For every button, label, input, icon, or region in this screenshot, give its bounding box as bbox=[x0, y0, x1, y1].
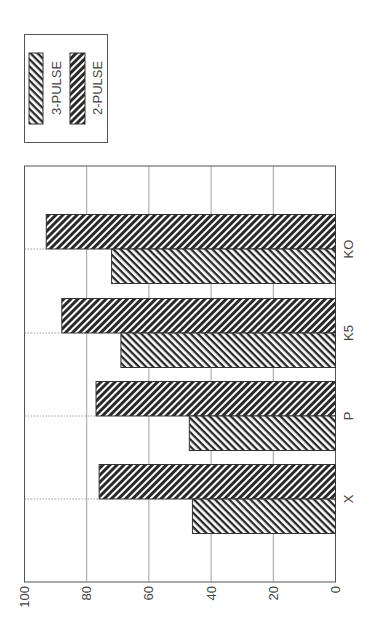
bar-3-pulse-x bbox=[192, 499, 335, 534]
value-tick-label: 80 bbox=[79, 586, 94, 600]
legend-label-2-pulse: 2-PULSE bbox=[90, 61, 105, 116]
value-tick-label: 0 bbox=[328, 586, 343, 593]
bar-2-pulse-k5 bbox=[62, 299, 336, 334]
category-label: P bbox=[341, 412, 356, 421]
bar-2-pulse-p bbox=[96, 382, 335, 417]
bar-2-pulse-x bbox=[99, 465, 335, 500]
value-axis-labels: 020406080100 bbox=[17, 586, 343, 608]
value-tick-label: 100 bbox=[17, 586, 32, 608]
bar-3-pulse-ko bbox=[112, 249, 336, 284]
bar-3-pulse-p bbox=[189, 416, 335, 451]
legend-swatch-2-pulse bbox=[70, 53, 85, 124]
bar-chart: 3-PULSE 2-PULSE 020406080100 XPK5KO bbox=[0, 0, 374, 638]
category-axis-labels: XPK5KO bbox=[341, 240, 356, 504]
bar-3-pulse-k5 bbox=[121, 333, 336, 368]
legend-swatch-3-pulse bbox=[29, 53, 43, 124]
bar-2-pulse-ko bbox=[46, 215, 335, 250]
legend: 3-PULSE 2-PULSE bbox=[25, 35, 108, 143]
value-tick-label: 40 bbox=[204, 586, 219, 600]
category-label: KO bbox=[341, 240, 356, 259]
legend-label-3-pulse: 3-PULSE bbox=[49, 61, 64, 116]
category-label: K5 bbox=[341, 325, 356, 341]
category-label: X bbox=[341, 494, 356, 503]
plot-area bbox=[25, 166, 336, 582]
value-tick-label: 60 bbox=[141, 586, 156, 600]
value-tick-label: 20 bbox=[266, 586, 281, 600]
